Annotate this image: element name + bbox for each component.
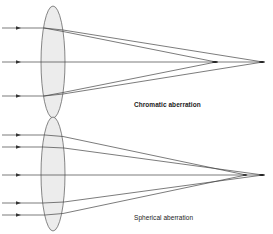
- incoming-rays: [2, 135, 45, 215]
- arrowhead-icons: [16, 26, 21, 97]
- refracted-rays: [63, 30, 263, 94]
- refracted-rays: [63, 137, 263, 214]
- spherical-aberration-caption: Spherical aberration: [134, 214, 193, 221]
- chromatic-aberration-caption: Chromatic aberration: [134, 101, 201, 108]
- aberration-diagram: [0, 0, 273, 234]
- incoming-rays: [2, 28, 44, 96]
- arrowhead-icons: [16, 133, 21, 216]
